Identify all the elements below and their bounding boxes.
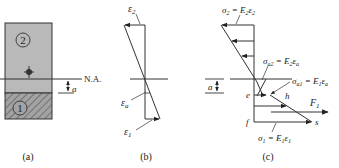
panel-c-stress-diagram: σ2 = E2ε2 σa2 = E2εa e σa1 = E1εa h f s … (205, 5, 328, 163)
eps2-leader (136, 14, 140, 24)
point-f-label: f (246, 117, 250, 127)
sigma1-leader (272, 123, 276, 132)
point-h-label: h (285, 91, 290, 101)
top-strain-label: ε2 (128, 3, 136, 16)
region-2-label: 2 (20, 34, 26, 46)
eps1-leader (136, 120, 152, 130)
point-e-label: e (246, 90, 250, 100)
sigma2-equation: σ2 = E2ε2 (222, 5, 255, 16)
sigma-a2-leader (262, 66, 268, 80)
sigma1-equation: σ1 = E1ε1 (258, 133, 291, 144)
sigma-a1-equation: σa1 = E1εa (292, 76, 328, 87)
offset-label-a-c: a (208, 82, 213, 92)
panel-a-cross-section: 2 1 N.A. a (a) (0, 23, 102, 163)
caption-b: (b) (140, 151, 152, 163)
region-1-label: 1 (17, 102, 23, 114)
region-2-material (5, 23, 52, 93)
caption-c: (c) (262, 151, 273, 163)
sigma2-leader (236, 15, 240, 24)
bottom-strain-label: ε1 (124, 126, 131, 139)
interface-strain-label: εa (121, 97, 129, 110)
offset-label-a: a (72, 84, 77, 94)
point-s-label: s (315, 117, 319, 127)
caption-a: (a) (22, 151, 33, 163)
region-1-material-hatched (5, 93, 52, 119)
resultant-force-label: F1 (309, 97, 320, 110)
composite-beam-diagram: 2 1 N.A. a (a) ε2 εa ε1 (b) (0, 0, 339, 168)
neutral-axis-label: N.A. (84, 74, 102, 84)
epsa-leader (131, 92, 146, 100)
strain-distribution-line (124, 25, 160, 119)
panel-b-strain-diagram: ε2 εa ε1 (b) (121, 3, 168, 163)
stress-line-region-1 (270, 95, 312, 122)
stress-line-region-2 (221, 25, 257, 82)
sigma-a2-equation: σa2 = E2εa (263, 56, 299, 67)
